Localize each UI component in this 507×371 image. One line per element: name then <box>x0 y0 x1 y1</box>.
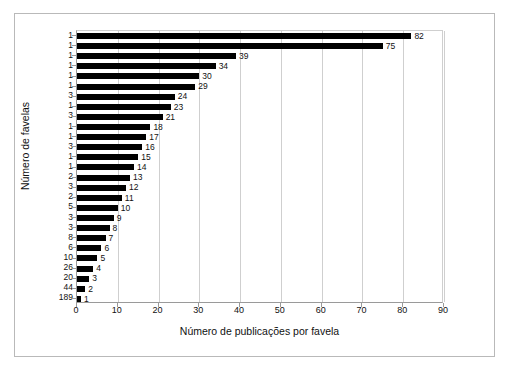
x-axis-tick-label: 90 <box>438 306 448 315</box>
y-axis-tickmark <box>72 96 76 97</box>
y-axis-tick-label: 189 <box>59 293 73 302</box>
bar[interactable] <box>77 94 175 100</box>
y-axis-tickmark <box>72 116 76 117</box>
bar-row[interactable]: 18 <box>77 122 163 132</box>
y-axis-tickmark <box>72 55 76 56</box>
bar[interactable] <box>77 245 101 251</box>
y-axis-tickmark <box>72 156 76 157</box>
bar[interactable] <box>77 286 85 292</box>
bar-value-label: 34 <box>219 62 228 71</box>
bar[interactable] <box>77 266 93 272</box>
bar[interactable] <box>77 73 199 79</box>
bar-value-label: 75 <box>386 42 395 51</box>
bar[interactable] <box>77 134 146 140</box>
bar-row[interactable]: 24 <box>77 92 187 102</box>
x-axis-tick-labels: 0102030405060708090 <box>76 306 443 320</box>
bar[interactable] <box>77 205 118 211</box>
bar-row[interactable]: 3 <box>77 274 97 284</box>
bar-row[interactable]: 34 <box>77 61 228 71</box>
y-axis-tickmark <box>72 76 76 77</box>
y-axis-tickmark <box>72 35 76 36</box>
bar-row[interactable]: 2 <box>77 284 93 294</box>
bar-value-label: 16 <box>145 143 154 152</box>
x-axis-tick-label: 50 <box>275 306 285 315</box>
bar[interactable] <box>77 195 122 201</box>
bar[interactable] <box>77 225 110 231</box>
bar[interactable] <box>77 296 81 302</box>
y-axis-tickmark <box>72 136 76 137</box>
bar[interactable] <box>77 33 411 39</box>
bar-row[interactable]: 14 <box>77 162 147 172</box>
bar[interactable] <box>77 154 138 160</box>
bar-row[interactable]: 8 <box>77 223 117 233</box>
bar-row[interactable]: 82 <box>77 31 424 41</box>
bar-value-label: 12 <box>129 183 138 192</box>
bar-row[interactable]: 12 <box>77 183 138 193</box>
bar[interactable] <box>77 104 171 110</box>
bar-row[interactable]: 39 <box>77 51 249 61</box>
bar-row[interactable]: 13 <box>77 173 142 183</box>
bar-row[interactable]: 23 <box>77 102 183 112</box>
bar-series: 8275393430292423211817161514131211109876… <box>77 31 442 302</box>
bar-value-label: 17 <box>149 133 158 142</box>
y-axis-tickmark <box>72 288 76 289</box>
y-axis-tickmark <box>72 258 76 259</box>
bar[interactable] <box>77 164 134 170</box>
bar[interactable] <box>77 84 195 90</box>
bar-value-label: 10 <box>121 204 130 213</box>
bar-value-label: 82 <box>414 32 423 41</box>
bar-row[interactable]: 16 <box>77 142 155 152</box>
bar-row[interactable]: 9 <box>77 213 121 223</box>
bar[interactable] <box>77 215 114 221</box>
bar-value-label: 4 <box>96 264 101 273</box>
y-axis-tickmark <box>72 146 76 147</box>
bar[interactable] <box>77 276 89 282</box>
x-axis-title: Número de publicações por favela <box>76 325 443 337</box>
gridline <box>444 31 445 302</box>
bar[interactable] <box>77 175 130 181</box>
bar-value-label: 11 <box>125 194 134 203</box>
bar[interactable] <box>77 185 126 191</box>
y-axis-tickmark <box>72 207 76 208</box>
bar-row[interactable]: 75 <box>77 41 395 51</box>
bar-row[interactable]: 15 <box>77 152 151 162</box>
bar-value-label: 14 <box>137 163 146 172</box>
y-axis-tickmark <box>72 298 76 299</box>
bar[interactable] <box>77 63 216 69</box>
y-axis-tickmark <box>72 177 76 178</box>
y-axis-tickmark <box>72 86 76 87</box>
bar-value-label: 39 <box>239 52 248 61</box>
y-axis-tickmark <box>72 197 76 198</box>
y-axis-tickmark <box>72 167 76 168</box>
bar[interactable] <box>77 144 142 150</box>
bar-value-label: 5 <box>100 254 105 263</box>
bar[interactable] <box>77 124 150 130</box>
y-axis-tick-labels: 111111313113112325338610262044189 <box>40 30 73 303</box>
y-axis-tickmark <box>72 237 76 238</box>
bar[interactable] <box>77 114 163 120</box>
x-axis-tick-label: 60 <box>316 306 326 315</box>
bar-row[interactable]: 1 <box>77 294 89 304</box>
bar-value-label: 1 <box>84 295 89 304</box>
x-axis-tick-label: 0 <box>73 306 78 315</box>
bar[interactable] <box>77 43 383 49</box>
y-axis-tickmark <box>72 247 76 248</box>
bar-row[interactable]: 11 <box>77 193 134 203</box>
x-axis-tick-label: 20 <box>153 306 163 315</box>
bar-row[interactable]: 30 <box>77 71 212 81</box>
bar[interactable] <box>77 255 97 261</box>
bar-row[interactable]: 7 <box>77 233 113 243</box>
x-axis-tick-label: 70 <box>356 306 366 315</box>
bar[interactable] <box>77 235 106 241</box>
bar-row[interactable]: 21 <box>77 112 175 122</box>
bar-row[interactable]: 10 <box>77 203 130 213</box>
bar-value-label: 7 <box>109 234 114 243</box>
bar-row[interactable]: 6 <box>77 243 109 253</box>
bar-row[interactable]: 5 <box>77 253 105 263</box>
bar[interactable] <box>77 53 236 59</box>
y-axis-tickmark <box>72 106 76 107</box>
bar-row[interactable]: 4 <box>77 264 101 274</box>
chart-figure: Número de favelas 1111113131131123253386… <box>0 0 507 371</box>
bar-row[interactable]: 29 <box>77 82 208 92</box>
bar-row[interactable]: 17 <box>77 132 159 142</box>
